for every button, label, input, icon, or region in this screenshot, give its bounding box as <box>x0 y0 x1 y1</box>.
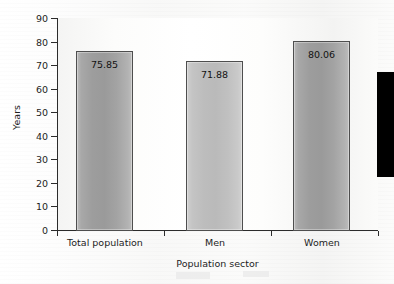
y-tick-label-90: 90 <box>22 13 48 24</box>
y-tick-label-60: 60 <box>22 84 48 95</box>
y-tick-label-0: 0 <box>22 225 48 236</box>
y-tick-label-10: 10 <box>22 201 48 212</box>
y-tick-label-40: 40 <box>22 131 48 142</box>
y-tick-mark-20 <box>51 183 57 184</box>
bar-value-women: 80.06 <box>294 49 349 60</box>
bar-value-total-population: 75.85 <box>77 59 132 70</box>
y-axis-line <box>57 18 58 231</box>
y-tick-mark-40 <box>51 136 57 137</box>
y-axis-title: Years <box>11 88 22 148</box>
y-tick-label-50: 50 <box>22 107 48 118</box>
x-tick-mark-2 <box>271 231 272 236</box>
y-tick-mark-50 <box>51 112 57 113</box>
y-tick-mark-60 <box>51 89 57 90</box>
y-tick-label-20: 20 <box>22 178 48 189</box>
x-tick-mark-left <box>57 231 58 236</box>
y-tick-label-70: 70 <box>22 60 48 71</box>
black-rectangle-mark <box>377 72 394 177</box>
x-category-label-men: Men <box>175 237 255 248</box>
y-tick-mark-80 <box>51 42 57 43</box>
x-tick-mark-right <box>378 231 379 236</box>
x-category-label-women: Women <box>282 237 362 248</box>
bar-women: 80.06 <box>293 41 350 231</box>
y-tick-mark-10 <box>51 206 57 207</box>
y-tick-mark-70 <box>51 65 57 66</box>
chart-screenshot: 0 10 20 30 40 50 60 70 80 90 75.85 71.88… <box>0 0 394 284</box>
x-category-label-total-population: Total population <box>55 237 155 248</box>
y-tick-mark-30 <box>51 159 57 160</box>
y-tick-label-30: 30 <box>22 154 48 165</box>
bar-value-men: 71.88 <box>187 69 242 80</box>
scan-artifact-right <box>243 271 269 277</box>
bar-men: 71.88 <box>186 61 243 231</box>
x-axis-title: Population sector <box>57 258 378 269</box>
scan-artifact-left <box>176 272 210 279</box>
x-tick-mark-1 <box>164 231 165 236</box>
y-tick-label-80: 80 <box>22 37 48 48</box>
bar-total-population: 75.85 <box>76 51 133 231</box>
y-tick-mark-90 <box>51 18 57 19</box>
